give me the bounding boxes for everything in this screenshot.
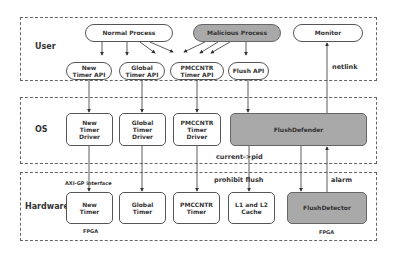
driver-new-timer: New Timer Driver	[66, 113, 113, 146]
os-layer-label: OS	[35, 125, 48, 134]
hw-pmccntr-timer: PMCCNTR Timer	[173, 192, 220, 224]
hw-l1-l2-cache: L1 and L2 Cache	[228, 192, 275, 224]
fpga-label-right: FPGA	[319, 229, 334, 235]
malicious-process: Malicious Process	[193, 24, 281, 42]
flush-defender: FlushDefender	[230, 113, 367, 146]
alarm-label: alarm	[331, 176, 352, 184]
api-flush: Flush API	[228, 62, 269, 80]
normal-process: Normal Process	[85, 24, 173, 42]
flush-detector: FlushDetector	[287, 192, 367, 224]
hw-global-timer: Global Timer	[119, 192, 166, 224]
hardware-layer-label: Hardware	[25, 202, 69, 211]
api-global-timer: Global Timer API	[119, 62, 165, 80]
netlink-label: netlink	[332, 63, 358, 71]
driver-global-timer: Global Timer Driver	[119, 113, 166, 146]
api-pmccntr-timer: PMCCNTR Timer API	[170, 62, 224, 80]
prohibit-flush-label: prohibit flush	[214, 176, 263, 184]
monitor: Monitor	[293, 24, 363, 42]
fpga-label-left: FPGA	[83, 228, 98, 234]
hw-new-timer: New Timer	[66, 192, 113, 224]
axi-gp-interface-label: AXI-GP interface	[65, 180, 112, 186]
driver-pmccntr-timer: PMCCNTR Timer Driver	[173, 113, 221, 146]
api-new-timer: New Timer API	[66, 62, 112, 80]
current-pid-label: current->pid	[216, 153, 263, 161]
user-layer-label: User	[35, 42, 56, 51]
